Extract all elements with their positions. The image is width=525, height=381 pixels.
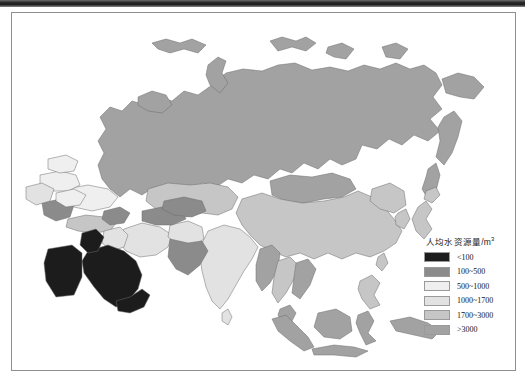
legend-swatch-gt3000	[424, 325, 450, 335]
legend-label-1000-1700: 1000~1700	[457, 296, 493, 305]
legend-title-superscript: 3	[491, 236, 495, 242]
legend-label-1700-3000: 1700~3000	[457, 311, 493, 320]
legend-item: <100	[424, 251, 516, 263]
map-legend: 人均水资源量/m3 <100 100~500 500~1000 1000~170…	[424, 235, 516, 338]
legend-title-text: 人均水资源量/m	[426, 237, 491, 247]
legend-label-lt100: <100	[457, 253, 474, 262]
legend-swatch-1000-1700	[424, 296, 450, 306]
legend-title: 人均水资源量/m3	[426, 235, 516, 247]
legend-swatch-1700-3000	[424, 310, 450, 320]
legend-label-100-500: 100~500	[457, 267, 485, 276]
legend-item: >3000	[424, 324, 516, 336]
figure-page: .ln{stroke:#6d6d6d;stroke-width:.5;strok…	[0, 0, 525, 381]
legend-item: 500~1000	[424, 280, 516, 292]
legend-item: 1000~1700	[424, 295, 516, 307]
legend-label-gt3000: >3000	[457, 325, 478, 334]
legend-swatch-500-1000	[424, 281, 450, 291]
scan-top-band	[0, 0, 525, 7]
legend-swatch-lt100	[424, 252, 450, 262]
figure-frame: .ln{stroke:#6d6d6d;stroke-width:.5;strok…	[11, 12, 516, 371]
legend-swatch-100-500	[424, 267, 450, 277]
legend-item: 100~500	[424, 266, 516, 278]
legend-item: 1700~3000	[424, 309, 516, 321]
legend-label-500-1000: 500~1000	[457, 282, 489, 291]
